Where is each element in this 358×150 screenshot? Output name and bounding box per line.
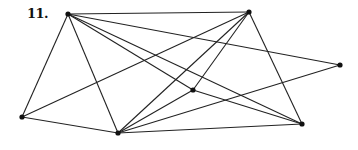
- vertex-B: [246, 9, 251, 14]
- vertex-Bt: [115, 130, 120, 135]
- edge-Bt-R: [118, 65, 340, 133]
- edge-B-BR: [249, 12, 302, 124]
- edge-A-R: [68, 14, 340, 65]
- edge-B-Bt: [118, 12, 249, 133]
- edge-Bt-C: [118, 90, 193, 133]
- edge-A-L: [22, 14, 68, 117]
- vertex-L: [19, 114, 24, 119]
- edge-Bt-BR: [118, 124, 302, 133]
- graph-edges: [22, 12, 340, 133]
- vertex-R: [337, 62, 342, 67]
- graph-nodes: [19, 9, 342, 135]
- vertex-A: [65, 11, 70, 16]
- edge-A-Bt: [68, 14, 118, 133]
- vertex-BR: [299, 121, 304, 126]
- edge-C-BR: [193, 90, 302, 124]
- edge-A-BR: [68, 14, 302, 124]
- vertex-C: [190, 87, 195, 92]
- graph-diagram: [0, 0, 358, 150]
- edge-L-Bt: [22, 117, 118, 133]
- edge-B-L: [22, 12, 249, 117]
- edge-A-B: [68, 12, 249, 14]
- edge-B-C: [193, 12, 249, 90]
